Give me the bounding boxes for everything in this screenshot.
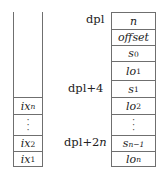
left-cell-ix-n: ixn [13, 97, 43, 115]
right-cell-vdots: ··· [111, 114, 156, 136]
cell-base-text: lo [126, 101, 136, 112]
cell-subscript: n [136, 156, 141, 164]
address-label-dpl: dpl [86, 14, 104, 26]
cell-subscript: 1 [134, 86, 139, 94]
cell-base-text: n [130, 16, 137, 27]
cell-base-text: lo [126, 154, 136, 165]
cell-subscript: 2 [136, 103, 141, 111]
cell-subscript: 1 [136, 68, 141, 76]
left-cell-ix-2: ix2 [13, 135, 43, 152]
right-cell-lo-1: lo1 [111, 61, 156, 81]
cell-base-text: lo [126, 66, 136, 77]
cell-subscript: n [30, 103, 35, 111]
right-cell-s-n-minus-1: sn−1 [111, 135, 156, 152]
cell-base-text: ix [21, 101, 31, 112]
cell-base-text: offset [118, 32, 149, 43]
vertical-ellipsis-icon: ··· [132, 118, 135, 133]
right-cell-lo-n: lon [111, 151, 156, 167]
left-stack-left-wall [13, 12, 14, 98]
right-cell-offset: offset [111, 29, 156, 46]
cell-subscript: 1 [30, 156, 35, 164]
right-cell-s-1: s1 [111, 80, 156, 98]
cell-subscript: n−1 [128, 141, 144, 149]
cell-base-text: ix [21, 154, 31, 165]
address-label-dpl-plus-2n: dpl+2n [64, 137, 107, 149]
cell-subscript: 2 [30, 141, 35, 149]
vertical-ellipsis-icon: ··· [26, 118, 29, 133]
address-label-dpl-plus-4: dpl+4 [68, 83, 103, 95]
right-cell-s-0: s0 [111, 45, 156, 62]
cell-subscript: 0 [134, 51, 139, 59]
left-cell-vdots: ··· [13, 114, 43, 136]
cell-base-text: ix [21, 138, 31, 149]
right-cell-n: n [111, 12, 156, 30]
right-cell-lo-2: lo2 [111, 97, 156, 115]
left-cell-ix-1: ix1 [13, 151, 43, 167]
left-stack-right-wall [42, 12, 43, 98]
